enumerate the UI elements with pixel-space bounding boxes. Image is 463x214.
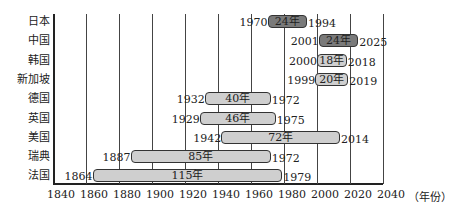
category-label: 德国 <box>0 92 50 106</box>
x-tick-label: 2000 <box>311 188 339 201</box>
start-year-label: 1864 <box>65 170 93 183</box>
end-year-label: 2018 <box>348 56 376 69</box>
x-tick-label: 1940 <box>212 188 240 201</box>
timeline-bar: 85年 <box>131 150 271 163</box>
x-axis-label: （年份） <box>408 188 452 204</box>
x-tick-label: 2040 <box>377 188 405 201</box>
start-year-label: 2000 <box>289 55 317 68</box>
start-year-label: 2001 <box>291 35 319 48</box>
end-year-label: 1972 <box>272 152 300 165</box>
category-label: 瑞典 <box>0 150 50 164</box>
end-year-label: 2014 <box>341 133 369 146</box>
timeline-chart: 1840186018801900192019401960198020002020… <box>0 0 463 214</box>
start-year-label: 1929 <box>172 113 200 126</box>
y-axis <box>53 14 55 184</box>
x-tick-label: 1860 <box>80 188 108 201</box>
timeline-bar: 24年 <box>268 15 308 28</box>
timeline-bar: 20年 <box>315 73 348 86</box>
gridline <box>86 14 87 184</box>
category-label: 英国 <box>0 112 50 126</box>
category-label: 法国 <box>0 169 50 183</box>
timeline-bar: 24年 <box>319 34 359 47</box>
start-year-label: 1887 <box>103 151 131 164</box>
end-year-label: 1975 <box>277 114 305 127</box>
category-label: 韩国 <box>0 54 50 68</box>
x-tick-label: 1880 <box>113 188 141 201</box>
x-tick-label: 1980 <box>278 188 306 201</box>
end-year-label: 1972 <box>272 94 300 107</box>
category-label: 中国 <box>0 34 50 48</box>
x-tick-label: 2020 <box>344 188 372 201</box>
category-label: 日本 <box>0 15 50 29</box>
end-year-label: 2025 <box>359 36 387 49</box>
start-year-label: 1970 <box>240 16 268 29</box>
end-year-label: 2019 <box>349 75 377 88</box>
end-year-label: 1994 <box>308 17 336 30</box>
x-tick-label: 1960 <box>245 188 273 201</box>
end-year-label: 1979 <box>283 171 311 184</box>
category-label: 美国 <box>0 131 50 145</box>
x-tick-label: 1840 <box>47 188 75 201</box>
x-tick-label: 1920 <box>179 188 207 201</box>
start-year-label: 1999 <box>287 74 315 87</box>
timeline-bar: 40年 <box>205 92 271 105</box>
timeline-bar: 18年 <box>317 54 347 67</box>
x-tick-label: 1900 <box>146 188 174 201</box>
start-year-label: 1942 <box>193 132 221 145</box>
timeline-bar: 115年 <box>93 169 283 182</box>
category-label: 新加坡 <box>0 73 50 87</box>
start-year-label: 1932 <box>177 93 205 106</box>
timeline-bar: 46年 <box>200 112 276 125</box>
timeline-bar: 72年 <box>221 131 340 144</box>
